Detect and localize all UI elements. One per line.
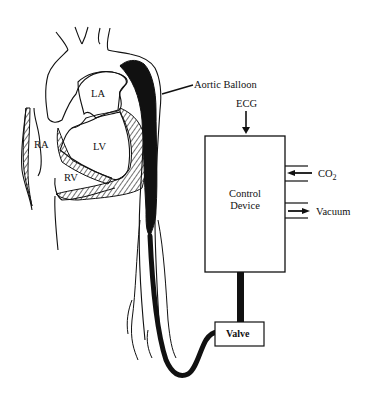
diagram-canvas: Aortic Balloon LA LV RA RV ECG CO2 Vacuu…	[0, 0, 370, 397]
vacuum-arrow-head	[302, 208, 310, 214]
control-device-line2: Device	[205, 200, 285, 212]
la-label: LA	[91, 88, 105, 99]
control-device-label: Control Device	[205, 188, 285, 212]
device-valve-connector	[237, 272, 244, 322]
arch-vessel-4	[99, 28, 101, 44]
aortic-balloon-callout-line	[162, 85, 193, 94]
valve-label: Valve	[226, 328, 250, 339]
co2-arrow-head	[287, 170, 295, 176]
ascending-aorta	[48, 72, 127, 128]
lv-label: LV	[93, 141, 106, 152]
co2-label: CO2	[318, 168, 337, 182]
aortic-balloon-label: Aortic Balloon	[194, 79, 257, 90]
aorta-arch-outer	[46, 50, 68, 118]
vacuum-label: Vacuum	[316, 206, 350, 217]
myocardium-hatched	[56, 108, 146, 200]
ecg-label: ECG	[236, 98, 257, 109]
arch-vessel-2	[75, 27, 82, 44]
arch-vessel-5	[107, 28, 110, 50]
arch-vessel-3	[82, 27, 88, 44]
control-device-line1: Control	[205, 188, 285, 200]
rv-lower	[55, 196, 58, 250]
rv-label: RV	[64, 172, 78, 183]
ecg-arrow-head	[242, 127, 250, 134]
arch-vessel-1	[56, 32, 68, 50]
ra-label: RA	[34, 139, 49, 150]
